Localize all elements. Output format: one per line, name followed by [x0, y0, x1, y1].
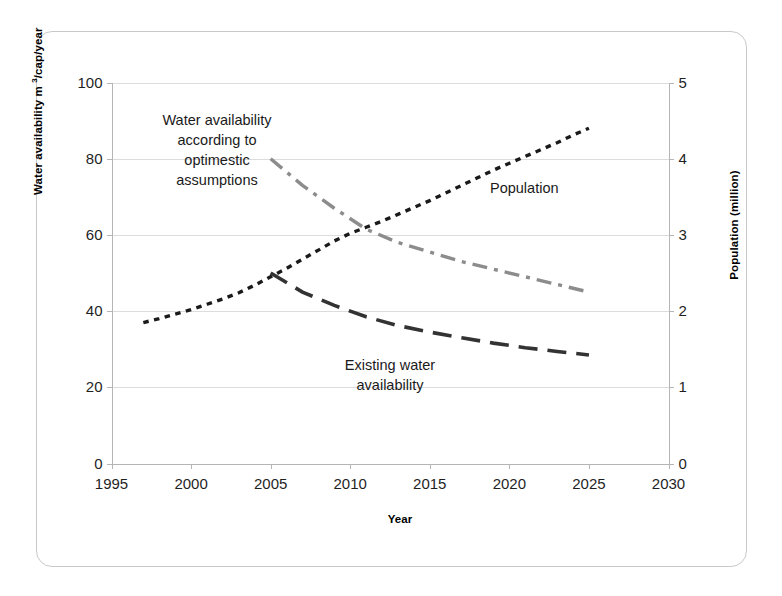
y-axis-left-title: Water availability m 3/cap/year	[30, 0, 44, 195]
y-axis-left-title-superscript: 3	[30, 78, 39, 83]
tick-label-right: 2	[679, 302, 719, 319]
tick-label-x: 2015	[395, 475, 465, 492]
tick-label-x: 2010	[315, 475, 385, 492]
tick-label-x: 1995	[77, 475, 147, 492]
tick-label-left: 60	[57, 226, 103, 243]
series-existing-availability	[271, 273, 589, 355]
chart-figure: Water availability m 3/cap/year Populati…	[0, 0, 782, 596]
tick-label-left: 100	[57, 74, 103, 91]
tick-label-x: 2020	[474, 475, 544, 492]
tick-label-left: 40	[57, 302, 103, 319]
y-axis-left-title-tail: /cap/year	[32, 27, 44, 78]
tick-label-left: 80	[57, 150, 103, 167]
y-axis-left-title-main: Water availability m	[32, 83, 44, 195]
tick-label-right: 1	[679, 378, 719, 395]
tick-label-left: 0	[57, 455, 103, 472]
tick-label-x: 2030	[634, 475, 704, 492]
annotation-optimistic-availability: Water availability according to optimest…	[128, 110, 306, 190]
tick-label-x: 2025	[554, 475, 624, 492]
tick-label-left: 20	[57, 378, 103, 395]
x-axis-title: Year	[340, 513, 460, 525]
tick-label-right: 5	[679, 74, 719, 91]
tick-label-right: 4	[679, 150, 719, 167]
tick-label-x: 2000	[156, 475, 226, 492]
tick-label-right: 3	[679, 226, 719, 243]
annotation-existing-availability: Existing water availability	[300, 355, 480, 395]
y-axis-right-title: Population (million)	[728, 135, 740, 315]
plot-canvas	[0, 0, 782, 596]
tick-label-x: 2005	[236, 475, 306, 492]
tick-label-right: 0	[679, 455, 719, 472]
annotation-population: Population	[490, 178, 620, 198]
